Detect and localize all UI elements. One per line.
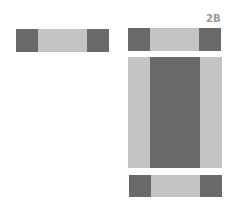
right-top-bar xyxy=(128,28,221,51)
right-bottom-bar-right-segment xyxy=(200,175,222,197)
left-bar xyxy=(16,29,109,52)
right-top-bar-right-segment xyxy=(199,28,221,51)
left-bar-left-segment xyxy=(16,29,38,52)
right-bottom-bar-middle-segment xyxy=(151,175,200,197)
figure-label: 2B xyxy=(206,14,221,24)
right-center-block-right-segment xyxy=(200,57,222,168)
right-center-block xyxy=(128,57,222,168)
right-center-block-left-segment xyxy=(128,57,150,168)
right-bottom-bar xyxy=(129,175,222,197)
left-bar-middle-segment xyxy=(38,29,87,52)
right-top-bar-left-segment xyxy=(128,28,150,51)
right-center-block-middle-segment xyxy=(150,57,200,168)
right-bottom-bar-left-segment xyxy=(129,175,151,197)
left-bar-right-segment xyxy=(87,29,109,52)
right-top-bar-middle-segment xyxy=(150,28,199,51)
